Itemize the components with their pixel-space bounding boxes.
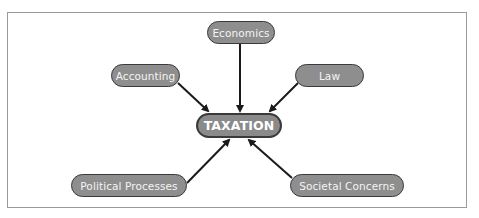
node-political-processes: Political Processes	[71, 174, 187, 197]
node-economics: Economics	[207, 21, 275, 44]
node-label: Economics	[212, 27, 269, 39]
arrow-law	[270, 83, 298, 111]
arrow-accounting	[178, 83, 208, 111]
node-societal-concerns: Societal Concerns	[290, 174, 404, 197]
arrow-political	[187, 140, 229, 183]
node-label: Accounting	[116, 70, 176, 82]
center-label: TAXATION	[204, 118, 275, 133]
node-label: Societal Concerns	[299, 180, 395, 192]
node-label: Law	[319, 70, 340, 82]
arrow-societal	[249, 140, 292, 178]
node-label: Political Processes	[80, 180, 177, 192]
node-law: Law	[295, 64, 364, 87]
node-taxation: TAXATION	[196, 113, 282, 138]
node-accounting: Accounting	[111, 64, 180, 87]
